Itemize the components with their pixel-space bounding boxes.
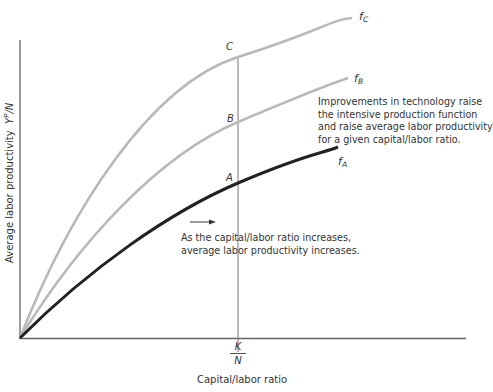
point-a-label: A xyxy=(226,173,233,183)
curve-fb xyxy=(20,78,348,338)
curve-fb-label: fB xyxy=(354,73,363,86)
point-c-label: C xyxy=(226,42,233,52)
curve-fc-label: fC xyxy=(359,11,368,24)
x-tick-kn: K N xyxy=(230,341,246,366)
y-axis-label: Average labor productivity YP/N xyxy=(3,103,15,263)
right-arrow-icon xyxy=(190,220,216,225)
curve-fa-label: fA xyxy=(338,156,347,169)
capital-ratio-note: As the capital/labor ratio increases, av… xyxy=(181,232,360,257)
point-b-label: B xyxy=(227,114,234,124)
technology-note: Improvements in technology raise the int… xyxy=(318,96,493,146)
x-axis-label: Capital/labor ratio xyxy=(197,375,287,385)
